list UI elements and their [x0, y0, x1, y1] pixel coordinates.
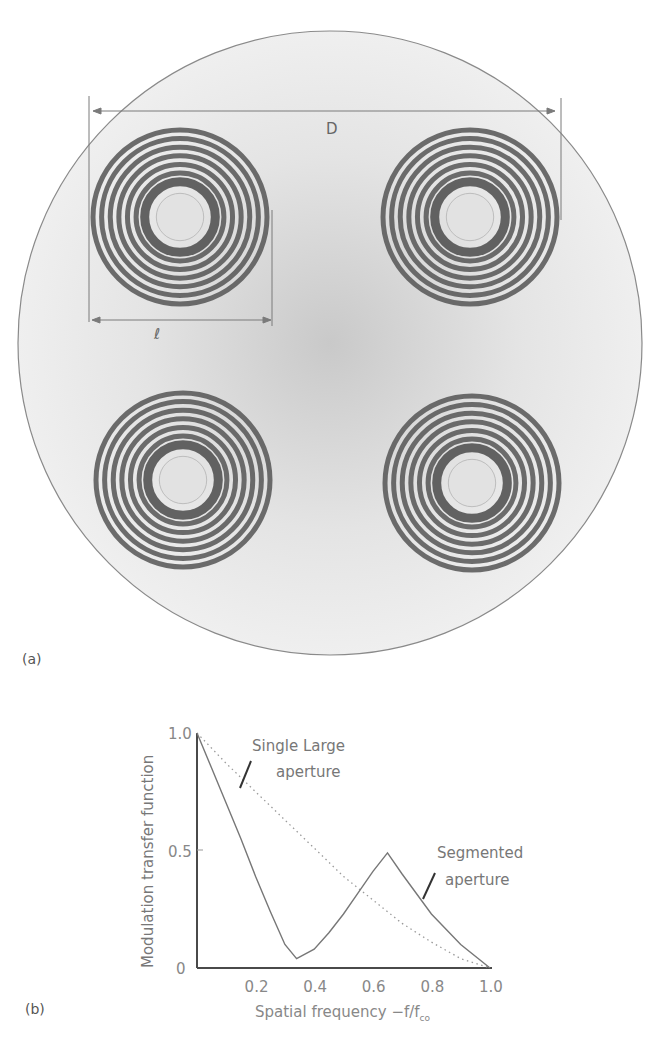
sub-aperture-top-right: [383, 130, 557, 304]
panel-b-label: (b): [25, 1001, 45, 1017]
x-tick-label: 0.4: [303, 978, 327, 996]
single-aperture-label-line2: aperture: [276, 763, 341, 781]
x-tick-label: 0.6: [362, 978, 386, 996]
y-tick-label: 1.0: [168, 725, 192, 743]
panel-b-mtf-chart: 0.20.40.60.81.0 00.51.0 Single Large ape…: [25, 725, 523, 1023]
y-tick-label: 0: [176, 960, 186, 978]
figure: D ℓ (a) 0.20.40.60.81.0 00.51.0 Single L…: [0, 0, 659, 1054]
dimension-l-label: ℓ: [153, 325, 160, 343]
x-tick-labels: 0.20.40.60.81.0: [245, 978, 503, 996]
panel-a-segmented-aperture-diagram: D ℓ (a): [18, 31, 642, 667]
segmented-aperture-label-line2: aperture: [445, 871, 510, 889]
panel-a-label: (a): [22, 651, 42, 667]
dimension-D-label: D: [326, 120, 338, 138]
x-tick-label: 0.8: [420, 978, 444, 996]
y-tick-labels: 00.51.0: [168, 725, 192, 978]
sub-aperture-bottom-left: [96, 393, 270, 567]
x-axis-label: Spatial frequency −f/fco: [255, 1003, 431, 1023]
single-aperture-label-line1: Single Large: [252, 737, 345, 755]
x-tick-label: 0.2: [245, 978, 269, 996]
segmented-aperture-label-line1: Segmented: [437, 844, 523, 862]
x-tick-label: 1.0: [479, 978, 503, 996]
y-axis-label: Modulation transfer function: [139, 755, 157, 968]
y-tick-label: 0.5: [168, 843, 192, 861]
sub-aperture-top-left: [93, 130, 267, 304]
segmented-aperture-leader: [423, 873, 435, 899]
sub-aperture-bottom-right: [385, 396, 559, 570]
single-aperture-leader: [240, 761, 251, 788]
